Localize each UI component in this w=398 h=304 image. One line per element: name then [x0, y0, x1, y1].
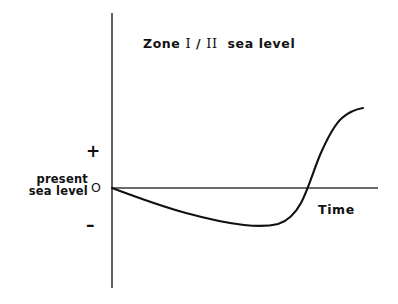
- y-axis-minus-label: –: [86, 215, 95, 235]
- x-axis-time-label: Time: [318, 202, 355, 217]
- sea-level-figure: ZoneІ/ІІsea level + O – presentsea level…: [0, 0, 398, 304]
- title-slash: /: [196, 36, 201, 51]
- title-zone-word: Zone: [143, 36, 180, 51]
- y-axis-plus-label: +: [86, 141, 101, 161]
- y-axis-zero-label: O: [91, 180, 101, 195]
- title-roman-numeral-one: І: [185, 36, 191, 51]
- title-sea-level-word: sea level: [228, 36, 296, 51]
- present-sea-level-label: presentsea level: [24, 173, 88, 197]
- chart-title: ZoneІ/ІІsea level: [143, 36, 295, 51]
- present-sea-level-line2: sea level: [24, 185, 88, 197]
- title-roman-numeral-two: ІІ: [206, 36, 217, 51]
